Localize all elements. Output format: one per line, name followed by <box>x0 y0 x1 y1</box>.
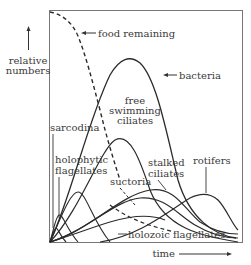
holophytic-flagellates-label: holophytic <box>55 154 108 165</box>
x-axis-label: time <box>152 248 175 259</box>
suctoria-label: suctoria <box>110 176 151 187</box>
sarcodina-label: sarcodina <box>50 122 100 133</box>
bacteria-label: bacteria <box>179 70 221 81</box>
x-axis-arrow-icon <box>179 252 232 256</box>
suctoria-dashed-pointer <box>120 188 135 205</box>
succession-diagram: relative numbers time food remaining bac… <box>0 0 251 265</box>
food-remaining-label: food remaining <box>98 28 176 39</box>
y-axis-label-2: numbers <box>6 65 51 76</box>
stalked-ciliates-label-2: ciliates <box>148 168 184 179</box>
holophytic-flagellates-label-2: flagellates <box>55 165 107 176</box>
stalked-pointer <box>158 180 166 190</box>
stalked-ciliates-label: stalked <box>148 157 185 168</box>
holozoic-flagellates-label: holozoic flagellates <box>128 229 225 240</box>
bacteria-curve <box>50 59 236 242</box>
bacteria-label-arrow-icon <box>163 73 177 77</box>
rotifers-label: rotifers <box>193 155 231 166</box>
y-axis-arrow-icon <box>27 26 31 50</box>
free-swimming-ciliates-label-3: ciliates <box>117 115 153 126</box>
food-label-arrow-icon <box>81 31 96 35</box>
